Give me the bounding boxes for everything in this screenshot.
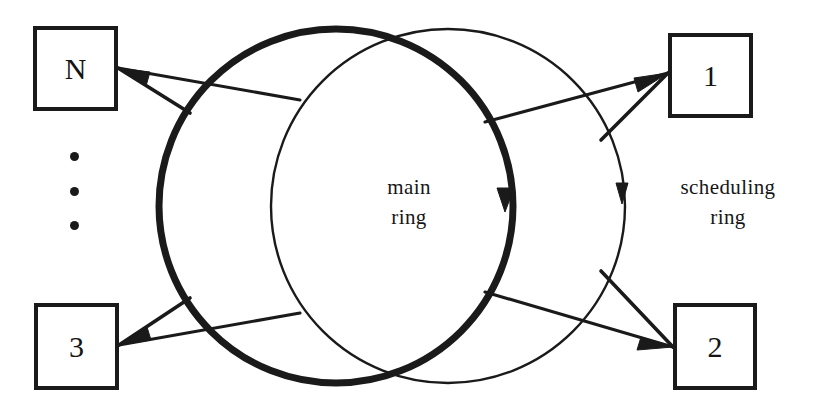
diagram-canvas: N 1 3 2 main ring scheduling ring: [0, 0, 831, 414]
node-label-3: 3: [69, 332, 84, 362]
node-box-2[interactable]: 2: [673, 303, 757, 390]
ellipsis-dot-2: [70, 187, 79, 196]
node-label-n: N: [65, 54, 87, 84]
node-label-2: 2: [708, 332, 723, 362]
main-ring-label: main ring: [336, 172, 482, 233]
node-box-1[interactable]: 1: [668, 33, 753, 118]
scheduling-ring-direction-arrow-icon: [616, 183, 628, 204]
node-box-3[interactable]: 3: [34, 303, 119, 390]
ellipsis-dot-1: [70, 152, 79, 161]
arrowhead-into-node-3-icon: [119, 327, 151, 345]
arrowhead-into-node-n-icon: [118, 68, 150, 86]
ellipsis-dot-3: [70, 221, 79, 230]
node-box-n[interactable]: N: [33, 26, 118, 111]
scheduling-ring-label: scheduling ring: [638, 172, 818, 233]
node-label-1: 1: [703, 61, 718, 91]
